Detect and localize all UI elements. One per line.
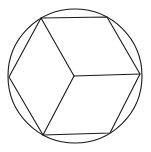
spoke-to-bottom-left-vertex	[43, 76, 74, 135]
spoke-to-right-vertex	[74, 74, 140, 76]
circle-hexagon-cube-diagram	[0, 0, 151, 152]
spoke-to-top-left-vertex	[41, 18, 74, 76]
